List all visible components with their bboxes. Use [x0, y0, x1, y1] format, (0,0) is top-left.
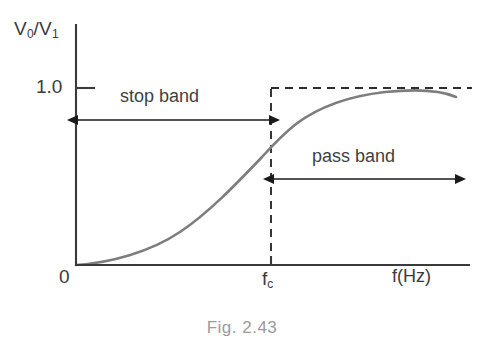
x-cutoff-label: fc	[262, 268, 273, 291]
x-axis-label: f(Hz)	[392, 266, 431, 287]
y-tick-label-1.0: 1.0	[36, 76, 62, 98]
stop-band-label: stop band	[120, 86, 199, 107]
y-axis-label-slash: /V	[34, 18, 52, 39]
filter-response-plot	[0, 0, 484, 352]
origin-label: 0	[59, 266, 70, 288]
response-curve	[76, 90, 456, 265]
x-cutoff-label-sub: c	[267, 277, 273, 291]
y-axis-label-sub0: 0	[27, 27, 34, 41]
pass-band-label: pass band	[312, 146, 395, 167]
ideal-response-dashed	[271, 88, 472, 265]
figure-caption: Fig. 2.43	[0, 318, 484, 338]
y-axis-label: V0/V1	[14, 18, 59, 41]
y-axis-label-sub1: 1	[52, 27, 59, 41]
figure-container: V0/V1 1.0 0 fc f(Hz) stop band pass band…	[0, 0, 484, 352]
y-axis-label-v0: V	[14, 18, 27, 39]
